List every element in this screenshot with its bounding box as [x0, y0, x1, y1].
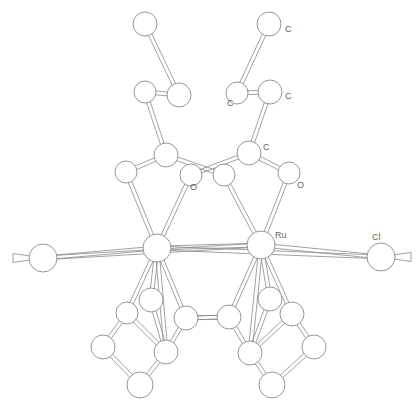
bond-edge: [227, 185, 253, 235]
bond-edge: [109, 356, 130, 378]
bond: [108, 320, 123, 339]
atom-c-sphere: [302, 335, 326, 359]
bond-edge: [282, 356, 307, 379]
bond-layer: [56, 33, 368, 378]
atom-ru-sphere: [247, 231, 275, 259]
tail-edge: [395, 253, 411, 255]
bond-edge: [258, 160, 279, 171]
atom-ru-sphere: [143, 234, 171, 262]
bond-edge: [132, 181, 154, 236]
atom-c-sphere: [133, 12, 157, 36]
bond-edge: [260, 156, 281, 167]
atom-c-sphere: [116, 302, 138, 324]
bond: [247, 90, 259, 94]
label-ru: Ru: [275, 230, 287, 240]
atom-c-sphere: [167, 83, 191, 107]
atom-label-layer: CCCCOORuCl: [190, 24, 381, 242]
bond-edge: [161, 183, 185, 235]
atom-cl-sphere: [367, 243, 395, 271]
label-c-mid-right: C: [263, 142, 270, 152]
bond: [197, 315, 218, 319]
bond-edge: [135, 319, 159, 343]
bond-edge: [251, 102, 265, 142]
bond-edge: [111, 322, 123, 339]
bond-edge: [236, 326, 246, 343]
bond-edge: [112, 354, 133, 376]
bond-edge: [267, 183, 287, 234]
bond-edge: [133, 321, 157, 345]
atom-c-sphere: [134, 81, 156, 103]
bond: [239, 33, 266, 85]
bond: [109, 354, 133, 378]
bond-edge: [300, 322, 310, 337]
bond-edge: [232, 256, 254, 306]
bond-edge: [239, 33, 262, 83]
label-c-top-right: C: [285, 24, 292, 34]
bond-edge: [146, 359, 158, 374]
label-c-upper-right: C: [285, 91, 292, 101]
bond-edge: [230, 183, 256, 233]
bond-edge: [156, 310, 165, 341]
bond-edge: [134, 158, 155, 167]
label-c-upper-left: C: [227, 98, 234, 108]
atom-c-sphere: [154, 143, 178, 167]
bond-edge: [150, 101, 164, 144]
bond: [148, 33, 176, 86]
bond: [170, 327, 182, 344]
bond: [146, 359, 161, 376]
label-o-left: O: [190, 182, 197, 192]
bond: [134, 158, 156, 170]
label-o-right: O: [297, 180, 304, 190]
atom-c-sphere: [91, 335, 115, 359]
chloride-terminal-tail: [395, 253, 411, 262]
atom-i-sphere: [29, 244, 57, 272]
atom-c-sphere: [217, 305, 241, 329]
bond-edge: [108, 320, 120, 337]
atom-c-sphere: [238, 341, 262, 365]
atom-c-sphere: [280, 302, 304, 326]
bond: [251, 102, 268, 143]
bond-edge: [136, 161, 157, 170]
bond: [155, 91, 168, 96]
bond-edge: [128, 182, 150, 237]
bond-edge: [155, 91, 168, 92]
atom-layer: [29, 12, 395, 398]
atom-c-sphere: [127, 372, 153, 398]
tail-edge: [13, 254, 29, 256]
bond: [264, 182, 287, 234]
atom-c-sphere: [174, 306, 198, 330]
bond-edge: [146, 102, 160, 145]
bond: [128, 181, 154, 237]
bond-edge: [170, 327, 179, 342]
bond-edge: [243, 35, 266, 85]
bond: [280, 353, 308, 378]
bond-edge: [257, 320, 283, 344]
bond-edge: [164, 185, 188, 237]
bond: [261, 258, 270, 289]
atom-c-sphere: [258, 80, 282, 104]
bond-edge: [280, 353, 305, 376]
tail-edge: [395, 259, 411, 261]
bond: [258, 156, 281, 170]
bond-edge: [235, 258, 257, 308]
molecule-diagram: CCCCOORuCl: [0, 0, 420, 410]
bond-edge: [173, 328, 182, 343]
label-cl: Cl: [372, 232, 381, 242]
bond-edge: [233, 327, 243, 344]
atom-c-sphere: [259, 372, 285, 398]
bond-edge: [259, 323, 285, 347]
atom-c-sphere: [257, 12, 281, 36]
bond-edge: [297, 324, 307, 339]
bond-edge: [254, 103, 268, 143]
bond-edge: [151, 33, 176, 84]
atom-c-sphere: [154, 340, 178, 364]
molecular-structure-figure: CCCCOORuCl: [0, 0, 420, 410]
bond-edge: [264, 182, 284, 233]
bond: [161, 183, 189, 237]
bond-edge: [149, 362, 161, 377]
tail-edge: [13, 260, 29, 262]
atom-c-sphere: [139, 288, 163, 312]
bond: [227, 183, 257, 234]
atom-c-sphere: [258, 287, 282, 311]
iodide-terminal-tail: [13, 254, 29, 263]
